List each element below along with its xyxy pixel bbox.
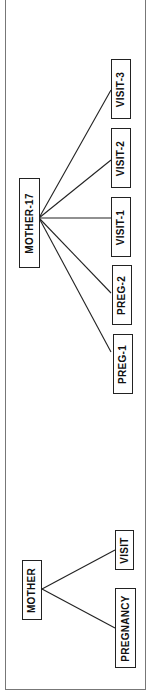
edge-mother17-preg2 (39, 218, 111, 293)
node-visit-2: VISIT-2 (111, 128, 131, 188)
node-visit: VISIT (115, 530, 134, 570)
node-label: PREG-2 (117, 275, 128, 314)
edge-mother17-visit3 (39, 90, 111, 218)
node-label: VISIT (119, 537, 130, 564)
node-label: MOTHER-17 (24, 193, 35, 253)
node-label: VISIT-1 (116, 209, 127, 244)
node-preg-1: PREG-1 (113, 334, 133, 394)
edge-mother-visit (42, 550, 115, 589)
node-label: MOTHER (27, 567, 38, 612)
node-mother-17: MOTHER-17 (19, 178, 40, 268)
node-pregnancy: PREGNANCY (115, 588, 136, 668)
node-visit-3: VISIT-3 (111, 59, 131, 119)
node-preg-2: PREG-2 (112, 265, 132, 325)
node-visit-1: VISIT-1 (111, 197, 131, 257)
node-label: PREG-1 (118, 344, 129, 383)
node-mother: MOTHER (22, 560, 42, 620)
edge-mother17-preg1 (39, 218, 111, 352)
node-label: VISIT-2 (116, 140, 127, 175)
edge-mother17-visit2 (39, 160, 111, 218)
edge-mother-pregnancy (42, 589, 115, 628)
node-label: VISIT-3 (116, 71, 127, 106)
node-label: PREGNANCY (120, 595, 131, 662)
